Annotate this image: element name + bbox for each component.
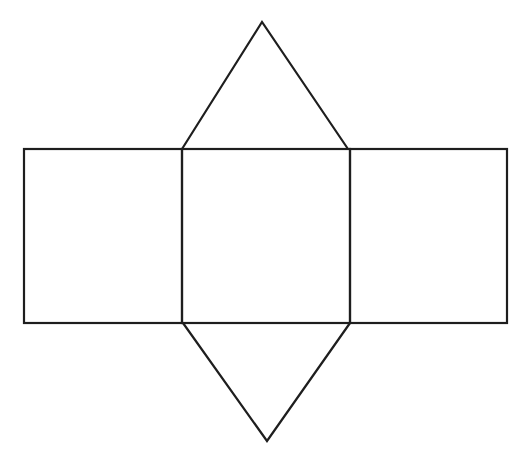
top-triangle-face (182, 22, 348, 149)
left-rectangle-face (24, 149, 182, 323)
right-rectangle-face (350, 149, 507, 323)
prism-net-diagram (0, 0, 531, 467)
center-rectangle-face (182, 149, 350, 323)
bottom-triangle-face (183, 323, 350, 441)
diagram-svg (0, 0, 531, 467)
